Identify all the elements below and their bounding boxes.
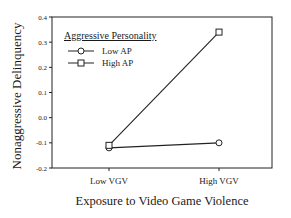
series-line [109,143,219,148]
y-axis: 0.40.30.20.10.0-0.1-0.2 [36,14,52,173]
y-tick-label: 0.0 [38,114,47,122]
y-tick-label: 0.2 [38,64,47,72]
legend-entry-high-ap: High AP [102,58,133,68]
x-tick-label: Low VGV [90,176,129,186]
y-tick-label: 0.1 [38,89,47,97]
x-axis: Low VGVHigh VGV [90,168,239,186]
y-tick-label: -0.1 [36,139,48,147]
legend: Aggressive Personality Low AP High AP [64,30,157,68]
circle-marker-icon [216,140,222,146]
legend-title: Aggressive Personality [64,30,157,41]
y-tick-label: 0.3 [38,39,47,47]
chart-canvas: 0.40.30.20.10.0-0.1-0.2 Low VGVHigh VGV … [0,0,291,218]
x-axis-label: Exposure to Video Game Violence [52,194,272,209]
x-tick-label: High VGV [199,176,239,186]
square-marker-icon [216,29,222,35]
y-tick-label: 0.4 [38,14,47,22]
y-axis-label: Nonaggressive Delinquency [9,21,25,171]
legend-circle-icon [78,48,84,54]
interaction-line-chart: 0.40.30.20.10.0-0.1-0.2 Low VGVHigh VGV … [0,0,291,218]
legend-square-icon [78,60,84,66]
square-marker-icon [106,142,112,148]
y-tick-label: -0.2 [36,165,48,173]
legend-entry-low-ap: Low AP [102,46,132,56]
